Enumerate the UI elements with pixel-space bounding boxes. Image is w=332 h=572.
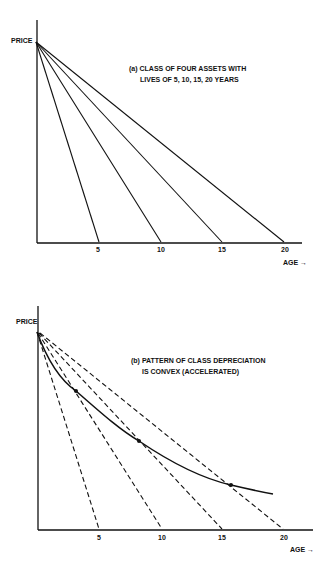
x-tick-15: 15 bbox=[218, 534, 226, 541]
x-axis-label: AGE → bbox=[283, 259, 307, 266]
y-axis-label: PRICE bbox=[16, 318, 38, 325]
chart-a: PRICE (a) CLASS OF FOUR ASSETS WITH LIVE… bbox=[11, 20, 307, 266]
x-tick-20: 20 bbox=[281, 246, 289, 253]
x-tick-5: 5 bbox=[97, 534, 101, 541]
line-life-20 bbox=[36, 42, 284, 242]
asset-lines bbox=[36, 42, 284, 242]
line-life-15 bbox=[36, 42, 222, 242]
intersection-points bbox=[74, 389, 233, 487]
chart-subtitle: LIVES OF 5, 10, 15, 20 YEARS bbox=[140, 76, 239, 84]
chart-b: PRICE (b) PATTERN OF CLASS DEPRECIATION … bbox=[16, 306, 314, 553]
y-axis-label: PRICE bbox=[11, 37, 33, 44]
line-life-5 bbox=[36, 42, 99, 242]
point-3 bbox=[229, 483, 233, 487]
chart-title: (b) PATTERN OF CLASS DEPRECIATION bbox=[131, 357, 266, 365]
x-tick-10: 10 bbox=[158, 534, 166, 541]
point-1 bbox=[74, 389, 78, 393]
chart-subtitle: IS CONVEX (ACCELERATED) bbox=[142, 368, 239, 376]
line-life-10 bbox=[36, 42, 161, 242]
x-tick-15: 15 bbox=[218, 246, 226, 253]
x-tick-5: 5 bbox=[96, 246, 100, 253]
x-tick-20: 20 bbox=[280, 534, 288, 541]
line-life-5 bbox=[37, 332, 99, 529]
chart-title: (a) CLASS OF FOUR ASSETS WITH bbox=[129, 65, 246, 73]
point-2 bbox=[137, 439, 141, 443]
x-axis-label: AGE → bbox=[290, 546, 314, 553]
x-tick-10: 10 bbox=[157, 246, 165, 253]
figure: PRICE (a) CLASS OF FOUR ASSETS WITH LIVE… bbox=[0, 0, 332, 572]
